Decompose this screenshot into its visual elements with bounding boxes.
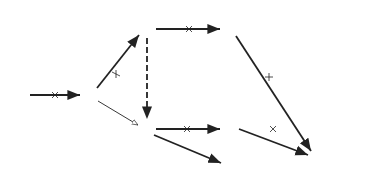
edge-5-8 — [236, 36, 311, 151]
tick-mark-icon — [265, 73, 273, 81]
edge-1-2 — [30, 92, 80, 98]
edge-4-6 — [156, 126, 220, 132]
edge-7-8 — [238, 152, 312, 164]
edge-4-7 — [154, 135, 221, 163]
cross-mark-icon — [270, 126, 276, 132]
tick-mark-icon — [112, 70, 120, 78]
edge-3-5 — [156, 26, 220, 32]
edge-2-4 — [98, 101, 138, 125]
network-diagram — [0, 0, 383, 185]
edge-2-3 — [97, 35, 139, 88]
